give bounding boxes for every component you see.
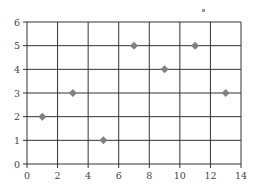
y-axis-ticks: 0123456 <box>14 17 20 170</box>
y-tick-label: 4 <box>14 64 20 75</box>
y-tick-label: 2 <box>14 111 20 122</box>
x-tick-label: 6 <box>116 170 122 181</box>
x-tick-label: 2 <box>55 170 61 181</box>
x-tick-label: 0 <box>24 170 30 181</box>
y-tick-label: 6 <box>14 17 20 28</box>
x-tick-label: 14 <box>235 170 247 181</box>
diamond-marker <box>130 42 138 50</box>
x-tick-label: 12 <box>204 170 216 181</box>
x-axis-ticks: 02468101214 <box>24 170 247 181</box>
y-tick-label: 5 <box>14 40 20 51</box>
x-tick-label: 10 <box>174 170 186 181</box>
diamond-marker <box>99 136 107 144</box>
diamond-marker <box>222 89 230 97</box>
y-tick-label: 3 <box>14 88 20 99</box>
diamond-marker <box>69 89 77 97</box>
diamond-marker <box>191 42 199 50</box>
diamond-marker <box>161 65 169 73</box>
x-tick-label: 4 <box>85 170 91 181</box>
y-tick-label: 1 <box>14 135 20 146</box>
scatter-chart: 0123456 02468101214 <box>0 0 254 193</box>
diamond-marker <box>38 113 46 121</box>
stray-dot <box>202 9 205 12</box>
x-tick-label: 8 <box>146 170 152 181</box>
y-tick-label: 0 <box>14 159 20 170</box>
